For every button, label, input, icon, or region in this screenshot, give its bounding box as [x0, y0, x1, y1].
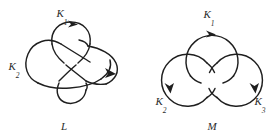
figure-svg: K1 K2 L: [0, 0, 279, 140]
knot-diagram-figure: K1 K2 L: [0, 0, 279, 140]
caption-left-L: L: [60, 120, 67, 132]
caption-right-M: M: [206, 120, 217, 132]
